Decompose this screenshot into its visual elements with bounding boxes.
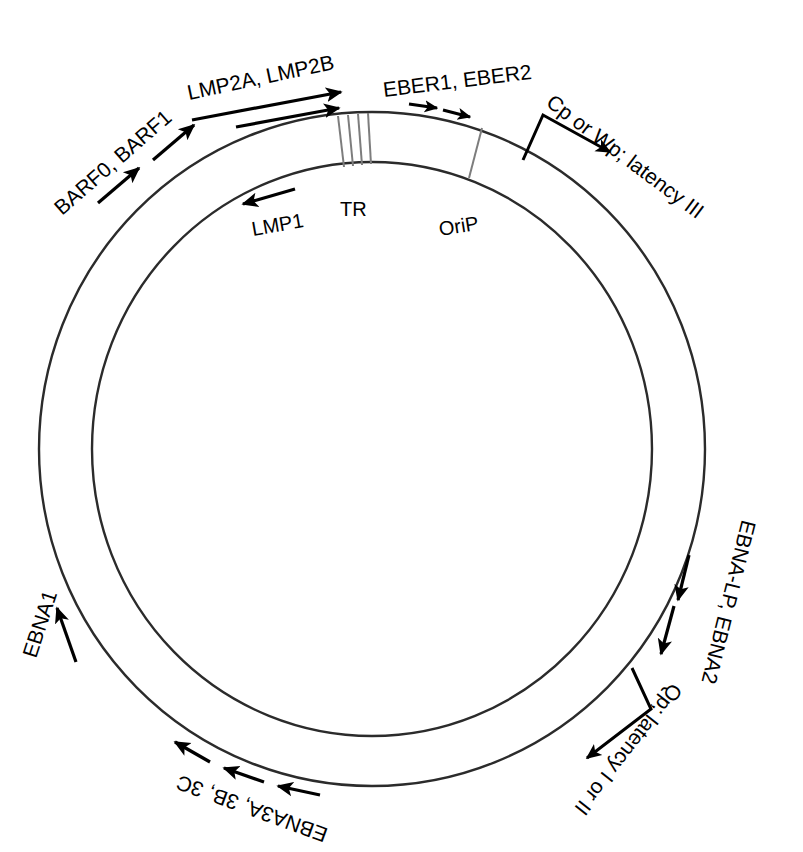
orip-marker-line [469,128,482,178]
qp-label: Qp; latency I or II [570,680,687,820]
orip-label: OriP [437,212,480,240]
tr-hatched-segment [338,113,371,167]
inner-genome-ring [92,162,652,736]
ebna1-arrow-group [57,608,76,662]
ebna1-label: EBNA1 [18,588,61,661]
lmp1-label: LMP1 [250,209,305,240]
ebnalp-label: EBNA-LP, EBNA2 [698,518,761,686]
ebna3-label: EBNA3A, 3B, 3C [173,771,330,847]
ebnalp-arrow-group [661,555,689,654]
ebv-genome-diagram: BARF0, BARF1 LMP2A, LMP2B EBER1, EBER2 C… [0,0,803,852]
cpwp-label: Cp or Wp; latency III [543,90,709,223]
figure-canvas: BARF0, BARF1 LMP2A, LMP2B EBER1, EBER2 C… [0,0,803,852]
outer-genome-ring [39,112,705,786]
eber-label: EBER1, EBER2 [382,60,533,101]
tr-label: TR [340,198,367,220]
barf-label: BARF0, BARF1 [50,105,176,219]
